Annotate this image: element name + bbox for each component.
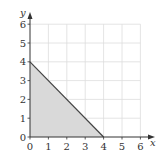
y-axis-label: y <box>19 7 26 18</box>
y-tick-label: 5 <box>20 38 26 49</box>
y-tick-label: 0 <box>20 132 26 143</box>
y-tick-label: 6 <box>20 19 26 30</box>
x-tick-label: 0 <box>27 141 33 152</box>
x-axis-label: x <box>150 137 156 148</box>
y-tick-label: 3 <box>20 75 26 86</box>
x-tick-label: 2 <box>64 141 70 152</box>
y-axis-arrow-icon <box>28 12 33 19</box>
x-tick-label: 6 <box>137 141 143 152</box>
x-tick-label: 5 <box>119 141 125 152</box>
x-tick-labels: 0123456 <box>27 137 144 152</box>
x-tick-label: 1 <box>45 141 51 152</box>
y-tick-label: 2 <box>20 94 26 105</box>
chart: 0123456 0123456 x y <box>0 0 160 160</box>
x-tick-label: 3 <box>82 141 88 152</box>
x-tick-label: 4 <box>100 141 106 152</box>
y-tick-label: 4 <box>20 56 26 67</box>
y-tick-label: 1 <box>20 113 26 124</box>
y-tick-labels: 0123456 <box>20 19 30 143</box>
